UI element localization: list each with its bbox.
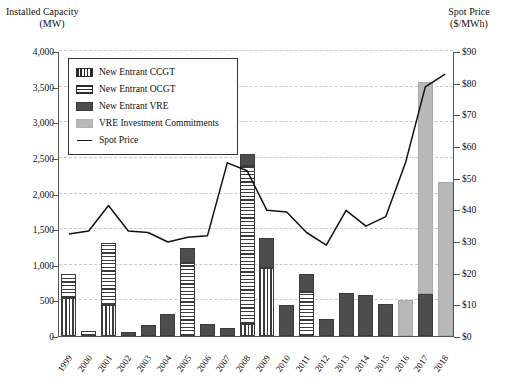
bar-segment-vre[interactable] [121, 332, 136, 336]
bar-segment-ocgt[interactable] [180, 263, 195, 336]
chart-legend: New Entrant CCGTNew Entrant OCGTNew Entr… [68, 58, 238, 155]
bar-segment-commit[interactable] [398, 300, 413, 336]
bar-segment-vre[interactable] [339, 293, 354, 336]
right-axis-tick-label: $10 [462, 300, 502, 310]
left-axis-tick-label: 2,000 [10, 190, 54, 200]
legend-swatch-line-icon [76, 136, 93, 145]
x-axis-tick-label: 2001 [95, 353, 114, 373]
left-axis-title-line2: (MW) [6, 18, 98, 30]
right-axis-tick-mark [454, 52, 460, 53]
legend-swatch-vre-icon [76, 102, 93, 111]
bar-group[interactable] [299, 51, 314, 336]
bar-segment-vre[interactable] [200, 324, 215, 336]
bar-group[interactable] [378, 51, 393, 336]
bar-segment-vre[interactable] [259, 238, 274, 268]
right-axis-tick-mark [454, 210, 460, 211]
x-axis-tick-label: 2018 [432, 353, 451, 373]
x-axis-tick-label: 2004 [155, 353, 174, 373]
bar-group[interactable] [398, 51, 413, 336]
bar-segment-ccgt[interactable] [61, 298, 76, 336]
x-axis-tick-label: 2000 [75, 353, 94, 373]
legend-item-label: New Entrant OCGT [99, 84, 176, 95]
right-axis-title-line2: ($/MWh) [450, 18, 488, 29]
left-axis-tick-mark [52, 301, 58, 302]
legend-item[interactable]: Spot Price [76, 132, 230, 149]
right-axis-tick-mark [454, 337, 460, 338]
x-axis-tick-label: 2006 [194, 353, 213, 373]
bar-segment-vre[interactable] [358, 295, 373, 336]
left-axis-tick-mark [52, 123, 58, 124]
left-axis-tick-label: 4,000 [10, 47, 54, 57]
legend-item-label: VRE Investment Commitments [99, 118, 219, 129]
x-axis-tick-label: 2009 [254, 353, 273, 373]
bar-segment-ccgt[interactable] [259, 268, 274, 336]
x-axis-tick-label: 2016 [392, 353, 411, 373]
legend-item[interactable]: New Entrant VRE [76, 98, 230, 115]
x-axis-tick-label: 2002 [115, 353, 134, 373]
bar-segment-vre[interactable] [299, 274, 314, 292]
left-axis-tick-label: 2,500 [10, 154, 54, 164]
bar-group[interactable] [240, 51, 255, 336]
bar-group[interactable] [319, 51, 334, 336]
bar-segment-vre[interactable] [220, 328, 235, 336]
bar-group[interactable] [438, 51, 453, 336]
left-axis-tick-label: 1,000 [10, 261, 54, 271]
x-axis-tick-label: 2007 [214, 353, 233, 373]
right-axis-tick-mark [454, 84, 460, 85]
bar-segment-vre[interactable] [180, 248, 195, 262]
left-axis-tick-label: 3,500 [10, 83, 54, 93]
right-axis-tick-label: $0 [462, 332, 502, 342]
left-axis-tick-label: 0 [10, 332, 54, 342]
x-axis-tick-label: 2015 [372, 353, 391, 373]
x-axis-tick-label: 2017 [412, 353, 431, 373]
x-axis-tick-label: 2008 [234, 353, 253, 373]
bar-group[interactable] [279, 51, 294, 336]
left-axis-title-line1: Installed Capacity [6, 6, 78, 17]
left-axis-tick-mark [52, 195, 58, 196]
x-axis-tick-label: 2011 [293, 354, 311, 374]
bar-segment-commit[interactable] [418, 82, 433, 294]
bar-segment-ocgt[interactable] [61, 274, 76, 298]
right-axis-title-line1: Spot Price [448, 6, 489, 17]
bar-segment-ocgt[interactable] [81, 331, 96, 336]
legend-item[interactable]: New Entrant CCGT [76, 64, 230, 81]
bar-group[interactable] [358, 51, 373, 336]
legend-item-label: Spot Price [99, 135, 138, 146]
bar-group[interactable] [339, 51, 354, 336]
left-axis-title: Installed Capacity (MW) [6, 6, 98, 30]
bar-segment-vre[interactable] [378, 304, 393, 336]
bar-segment-commit[interactable] [438, 182, 453, 336]
bar-group[interactable] [259, 51, 274, 336]
bar-segment-vre[interactable] [160, 314, 175, 336]
bar-segment-vre[interactable] [240, 154, 255, 167]
chart-root: Installed Capacity (MW) Spot Price ($/MW… [0, 0, 510, 390]
left-axis-tick-mark [52, 230, 58, 231]
legend-item[interactable]: VRE Investment Commitments [76, 115, 230, 132]
bar-segment-vre[interactable] [418, 294, 433, 336]
bar-segment-vre[interactable] [141, 325, 156, 336]
bar-segment-ccgt[interactable] [101, 305, 116, 336]
left-axis-tick-mark [52, 52, 58, 53]
bar-group[interactable] [418, 51, 433, 336]
right-axis-tick-label: $70 [462, 110, 502, 120]
right-axis-tick-label: $80 [462, 79, 502, 89]
left-axis-tick-label: 1,500 [10, 225, 54, 235]
left-axis-tick-mark [52, 266, 58, 267]
right-axis-tick-label: $40 [462, 205, 502, 215]
legend-item-label: New Entrant CCGT [99, 67, 175, 78]
bar-segment-ocgt[interactable] [240, 166, 255, 323]
bar-segment-vre[interactable] [319, 319, 334, 336]
right-axis-tick-label: $50 [462, 174, 502, 184]
right-axis-tick-mark [454, 274, 460, 275]
right-axis-tick-label: $30 [462, 237, 502, 247]
bar-segment-ocgt[interactable] [299, 292, 314, 336]
legend-item[interactable]: New Entrant OCGT [76, 81, 230, 98]
right-axis-tick-label: $90 [462, 47, 502, 57]
bar-segment-ocgt[interactable] [101, 243, 116, 306]
legend-swatch-ocgt-icon [76, 85, 93, 94]
right-axis-tick-mark [454, 115, 460, 116]
bar-segment-ccgt[interactable] [240, 324, 255, 336]
right-axis-tick-mark [454, 242, 460, 243]
x-axis-tick-label: 2012 [313, 353, 332, 373]
bar-segment-vre[interactable] [279, 305, 294, 336]
